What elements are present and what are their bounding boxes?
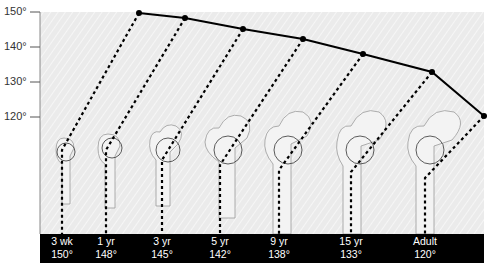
age-label: 1 yr — [81, 235, 131, 248]
age-label: 5 yr — [195, 235, 245, 248]
y-tick-120: 120° — [4, 110, 34, 122]
angle-label: 138° — [254, 248, 304, 261]
x-label-15yr: 15 yr133° — [326, 235, 376, 261]
age-label: Adult — [400, 235, 450, 248]
x-label-9yr: 9 yr138° — [254, 235, 304, 261]
angle-label: 148° — [81, 248, 131, 261]
y-tick-150: 150° — [4, 5, 34, 17]
angle-label: 133° — [326, 248, 376, 261]
y-tick-130: 130° — [4, 75, 34, 87]
angle-label: 120° — [400, 248, 450, 261]
x-label-3wk: 3 wk150° — [37, 235, 87, 261]
age-label: 15 yr — [326, 235, 376, 248]
y-tick-marks — [30, 12, 40, 117]
angle-label: 145° — [137, 248, 187, 261]
chart-plot — [0, 0, 489, 268]
x-label-3yr: 3 yr145° — [137, 235, 187, 261]
age-label: 3 wk — [37, 235, 87, 248]
y-tick-140: 140° — [4, 40, 34, 52]
age-label: 9 yr — [254, 235, 304, 248]
x-label-5yr: 5 yr142° — [195, 235, 245, 261]
angle-label: 150° — [37, 248, 87, 261]
x-label-1yr: 1 yr148° — [81, 235, 131, 261]
x-label-adult: Adult120° — [400, 235, 450, 261]
age-label: 3 yr — [137, 235, 187, 248]
angle-label: 142° — [195, 248, 245, 261]
